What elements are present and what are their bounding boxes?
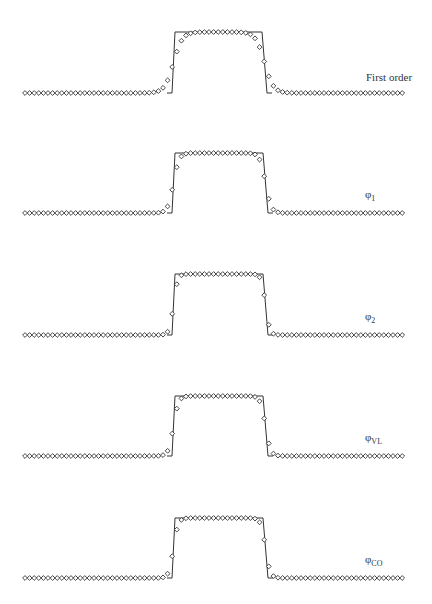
data-point-marker	[156, 89, 161, 94]
data-point-marker	[147, 90, 152, 95]
data-point-marker	[276, 332, 281, 337]
data-point-marker	[161, 85, 166, 90]
panel-label: First order	[366, 71, 412, 83]
data-point-marker	[257, 45, 262, 50]
panel-label-main: First order	[366, 71, 412, 83]
exact-solution-line	[167, 396, 273, 456]
data-point-marker	[179, 154, 184, 159]
data-point-marker	[161, 332, 166, 337]
exact-solution-line	[167, 274, 273, 335]
data-point-marker	[234, 30, 239, 35]
data-point-marker	[174, 527, 179, 532]
data-point-marker	[165, 571, 170, 576]
data-point-marker	[165, 204, 170, 209]
data-point-marker	[151, 90, 156, 95]
data-point-marker	[170, 431, 175, 436]
data-point-marker	[276, 453, 281, 458]
data-point-marker	[239, 30, 244, 35]
data-point-marker	[262, 293, 267, 298]
data-point-marker	[248, 516, 253, 521]
data-point-marker	[248, 272, 253, 277]
exact-solution-line	[167, 153, 273, 213]
data-point-marker	[174, 406, 179, 411]
data-point-marker	[156, 210, 161, 215]
data-point-marker	[400, 211, 405, 216]
panel-label: φ2	[365, 310, 375, 325]
data-point-marker	[257, 275, 262, 280]
data-point-marker	[174, 49, 179, 54]
data-point-marker	[262, 174, 267, 179]
data-point-marker	[184, 151, 189, 156]
data-point-marker	[253, 36, 258, 41]
data-point-marker	[156, 576, 161, 581]
data-point-marker	[248, 151, 253, 156]
data-point-marker	[170, 65, 175, 70]
data-point-marker	[165, 448, 170, 453]
data-point-marker	[161, 209, 166, 214]
data-point-marker	[400, 454, 405, 459]
data-point-marker	[248, 394, 253, 399]
data-point-marker	[262, 537, 267, 542]
data-point-marker	[243, 394, 248, 399]
data-point-marker	[262, 416, 267, 421]
panel-4	[23, 394, 405, 459]
data-point-marker	[253, 272, 258, 277]
data-point-marker	[165, 329, 170, 334]
data-point-marker	[257, 399, 262, 404]
data-point-marker	[253, 394, 258, 399]
panel-2	[23, 151, 405, 216]
panel-label: φ1	[365, 188, 375, 203]
data-point-marker	[271, 83, 276, 88]
data-point-marker	[179, 396, 184, 401]
data-point-marker	[151, 211, 156, 216]
data-point-marker	[266, 74, 271, 79]
panel-3	[23, 272, 405, 338]
panel-label-subscript: 1	[371, 194, 375, 203]
data-point-marker	[184, 394, 189, 399]
data-point-marker	[174, 165, 179, 170]
panel-label: φCO	[365, 553, 382, 568]
data-point-marker	[253, 516, 258, 521]
data-point-marker	[184, 33, 189, 38]
data-point-marker	[156, 453, 161, 458]
exact-solution-line	[167, 518, 273, 578]
data-point-marker	[193, 30, 198, 35]
data-point-marker	[243, 151, 248, 156]
data-point-marker	[142, 91, 147, 96]
data-point-marker	[400, 576, 405, 581]
data-point-marker	[400, 333, 405, 338]
data-point-marker	[271, 451, 276, 456]
data-point-marker	[271, 207, 276, 212]
data-point-marker	[151, 454, 156, 459]
data-point-marker	[285, 90, 290, 95]
data-point-marker	[184, 272, 189, 277]
data-point-marker	[165, 78, 170, 83]
data-point-marker	[257, 520, 262, 525]
data-point-marker	[161, 453, 166, 458]
data-point-marker	[170, 554, 175, 559]
data-point-marker	[174, 282, 179, 287]
data-point-marker	[257, 157, 262, 162]
data-point-marker	[262, 59, 267, 64]
data-point-marker	[170, 311, 175, 316]
data-point-marker	[161, 575, 166, 580]
square-pulse-comparison-chart	[0, 0, 432, 604]
data-point-marker	[276, 210, 281, 215]
data-point-marker	[243, 30, 248, 35]
data-point-marker	[248, 32, 253, 37]
data-point-marker	[400, 91, 405, 96]
data-point-marker	[170, 187, 175, 192]
panel-1	[23, 30, 405, 96]
panel-label-subscript: CO	[371, 559, 382, 568]
data-point-marker	[179, 38, 184, 43]
panel-label: φVL	[365, 431, 382, 446]
panel-label-subscript: 2	[371, 316, 375, 325]
panel-label-subscript: VL	[371, 437, 382, 446]
data-point-marker	[156, 333, 161, 338]
panel-5	[23, 516, 405, 581]
